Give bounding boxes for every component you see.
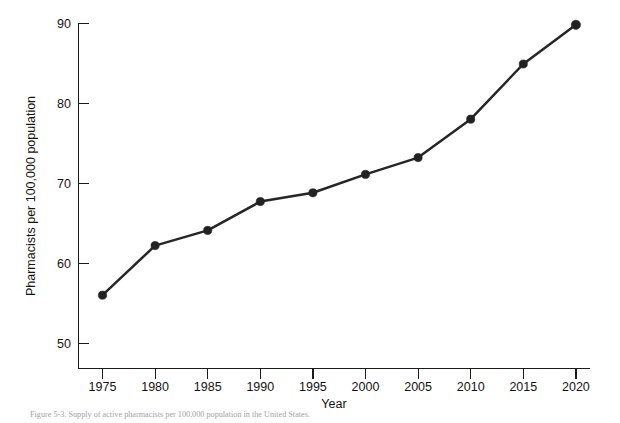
data-point [519, 60, 527, 68]
x-tick-label-1990: 1990 [246, 380, 274, 394]
data-point [571, 20, 580, 29]
x-tick-label-2010: 2010 [457, 380, 485, 394]
y-axis-ticks: 90 80 70 60 50 [57, 17, 88, 351]
x-tick-label-2015: 2015 [509, 380, 537, 394]
line-chart: 90 80 70 60 50 1975 1980 1985 1990 1995 … [0, 0, 620, 423]
y-tick-label-90: 90 [57, 17, 71, 31]
figure-caption: Figure 5-3. Supply of active pharmacists… [30, 410, 610, 420]
x-tick-label-1975: 1975 [89, 380, 117, 394]
x-tick-label-1980: 1980 [141, 380, 169, 394]
x-tick-label-2000: 2000 [352, 380, 380, 394]
x-tick-label-1995: 1995 [299, 380, 327, 394]
data-point [361, 170, 369, 178]
data-point [309, 189, 317, 197]
y-tick-label-70: 70 [57, 177, 71, 191]
x-axis-title: Year [321, 397, 346, 411]
x-tick-label-2020: 2020 [562, 380, 590, 394]
data-point [414, 154, 422, 162]
figure-container: 90 80 70 60 50 1975 1980 1985 1990 1995 … [0, 0, 620, 423]
data-series [98, 20, 580, 299]
data-point [256, 198, 264, 206]
data-point [98, 291, 106, 299]
data-point [204, 226, 212, 234]
x-axis-ticks: 1975 1980 1985 1990 1995 2000 2005 2010 … [89, 369, 590, 395]
y-tick-label-60: 60 [57, 257, 71, 271]
y-axis-title: Pharmacists per 100,000 population [24, 96, 38, 296]
x-tick-label-2005: 2005 [404, 380, 432, 394]
data-point [467, 115, 475, 123]
y-tick-label-80: 80 [57, 97, 71, 111]
y-tick-label-50: 50 [57, 337, 71, 351]
series-line-pharmacists [103, 25, 576, 295]
x-tick-label-1985: 1985 [194, 380, 222, 394]
data-point [151, 242, 159, 250]
